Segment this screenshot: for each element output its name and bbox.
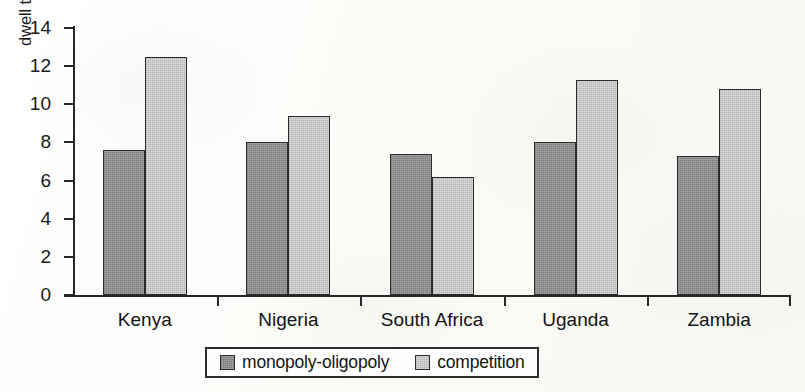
x-axis-tick [789,295,791,306]
category-label: Zambia [688,309,751,331]
category-label: Nigeria [258,309,318,331]
bar-competition [576,80,618,296]
y-axis-tick: 10 [64,103,73,105]
bar-competition [719,89,761,295]
y-axis-tick: 12 [64,65,73,67]
category-label: Uganda [542,309,609,331]
y-axis-tick: 8 [64,141,73,143]
y-axis-tick: 6 [64,180,73,182]
x-axis-tick [360,295,362,306]
y-axis-tick-label: 2 [40,246,51,268]
legend-item: monopoly-oligopoly [220,352,389,373]
x-axis-tick [504,295,506,306]
y-axis-tick: 0 [64,294,73,296]
legend-swatch-icon [415,355,430,370]
bar-monopoly-oligopoly [390,154,432,295]
x-axis-tick [217,295,219,306]
y-axis-line [73,26,75,295]
x-axis-tick [647,295,649,306]
legend-label: competition [437,352,524,373]
bar-monopoly-oligopoly [534,142,576,295]
y-axis-tick: 4 [64,218,73,220]
y-axis-tick: 14 [64,27,73,29]
y-axis-tick-label: 12 [30,55,51,77]
chart-legend: monopoly-oligopolycompetition [205,347,539,378]
x-axis-line [64,295,791,297]
y-axis-tick-label: 10 [30,93,51,115]
y-axis-tick: 2 [64,256,73,258]
legend-swatch-icon [220,355,235,370]
bar-monopoly-oligopoly [677,156,719,295]
bar-competition [288,116,330,295]
bar-monopoly-oligopoly [246,142,288,295]
legend-item: competition [415,352,524,373]
y-axis-tick-label: 0 [40,284,51,306]
category-label: South Africa [381,309,483,331]
category-label: Kenya [118,309,172,331]
y-axis-tick-label: 4 [40,208,51,230]
legend-label: monopoly-oligopoly [242,352,389,373]
bar-competition [145,57,187,295]
y-axis-tick-label: 8 [40,131,51,153]
y-axis-tick-label: 14 [30,17,51,39]
bar-monopoly-oligopoly [103,150,145,295]
bar-chart-figure: dwell time (number of days) 02468101214 … [0,0,805,392]
y-axis-tick-label: 6 [40,170,51,192]
plot-area: 02468101214 KenyaNigeriaSouth AfricaUgan… [73,28,791,295]
bar-competition [432,177,474,295]
